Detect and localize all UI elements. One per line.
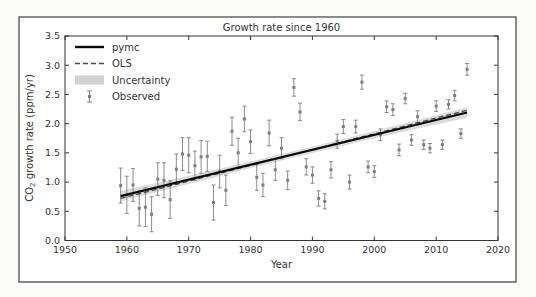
observed-marker	[255, 176, 258, 179]
x-tick-label: 2020	[486, 244, 510, 255]
observed-marker	[193, 164, 196, 167]
y-tick-label: 0.5	[45, 206, 60, 217]
observed-marker	[447, 103, 450, 106]
observed-marker	[206, 155, 209, 158]
observed-marker	[169, 198, 172, 201]
observed-marker	[323, 200, 326, 203]
observed-marker	[292, 86, 295, 89]
observed-marker	[175, 168, 178, 171]
legend-sample-observed	[88, 95, 91, 98]
observed-marker	[317, 197, 320, 200]
chart-title: Growth rate since 1960	[223, 22, 340, 33]
observed-marker	[466, 68, 469, 71]
observed-marker	[249, 140, 252, 143]
observed-marker	[274, 168, 277, 171]
observed-marker	[354, 125, 357, 128]
observed-marker	[336, 140, 339, 143]
observed-marker	[373, 170, 376, 173]
observed-marker	[367, 165, 370, 168]
observed-marker	[200, 155, 203, 158]
observed-marker	[391, 108, 394, 111]
y-tick-label: 3.0	[45, 60, 60, 71]
observed-marker	[119, 184, 122, 187]
y-tick-label: 2.5	[45, 89, 60, 100]
observed-marker	[268, 131, 271, 134]
observed-marker	[224, 189, 227, 192]
observed-marker	[280, 147, 283, 150]
observed-marker	[150, 213, 153, 216]
observed-marker	[243, 117, 246, 120]
observed-marker	[385, 105, 388, 108]
observed-marker	[348, 181, 351, 184]
observed-marker	[410, 139, 413, 142]
observed-marker	[187, 154, 190, 157]
y-tick-label: 3.5	[45, 30, 60, 41]
observed-marker	[156, 178, 159, 181]
observed-marker	[360, 81, 363, 84]
legend-label: OLS	[112, 58, 132, 69]
observed-marker	[138, 207, 141, 210]
observed-marker	[237, 151, 240, 154]
observed-marker	[398, 148, 401, 151]
observed-marker	[299, 110, 302, 113]
observed-marker	[422, 143, 425, 146]
observed-marker	[329, 168, 332, 171]
x-tick-label: 2010	[424, 244, 448, 255]
observed-marker	[416, 115, 419, 118]
chart-canvas: 195019601970198019902000201020200.00.51.…	[0, 0, 536, 297]
y-tick-label: 2.0	[45, 118, 60, 129]
observed-marker	[181, 153, 184, 156]
x-tick-label: 1960	[115, 244, 139, 255]
observed-marker	[428, 147, 431, 150]
observed-marker	[441, 143, 444, 146]
observed-marker	[459, 132, 462, 135]
x-tick-label: 1980	[238, 244, 262, 255]
observed-marker	[162, 179, 165, 182]
observed-marker	[261, 183, 264, 186]
observed-marker	[212, 201, 215, 204]
observed-marker	[144, 206, 147, 209]
legend-label: Observed	[112, 91, 160, 102]
y-tick-label: 1.5	[45, 147, 60, 158]
legend-label: Uncertainty	[112, 75, 171, 86]
y-tick-label: 1.0	[45, 176, 60, 187]
observed-marker	[305, 165, 308, 168]
x-axis-label: Year	[270, 259, 293, 270]
y-tick-label: 0.0	[45, 235, 60, 246]
figure: 195019601970198019902000201020200.00.51.…	[0, 0, 536, 297]
observed-marker	[435, 105, 438, 108]
x-tick-label: 1970	[177, 244, 201, 255]
observed-marker	[342, 125, 345, 128]
legend-sample-uncertainty	[75, 76, 104, 85]
legend-label: pymc	[112, 42, 140, 53]
observed-marker	[286, 179, 289, 182]
observed-marker	[311, 174, 314, 177]
observed-marker	[453, 94, 456, 97]
observed-marker	[231, 130, 234, 133]
x-tick-label: 2000	[362, 244, 386, 255]
observed-marker	[132, 183, 135, 186]
observed-marker	[404, 97, 407, 100]
x-tick-label: 1990	[300, 244, 324, 255]
